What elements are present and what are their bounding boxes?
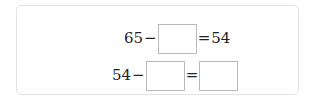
answer-box-1[interactable] (146, 61, 185, 91)
equals-sign: = (185, 60, 200, 91)
answer-box[interactable] (158, 24, 197, 54)
problem-card: 65 − = 54 54 − = (16, 5, 299, 95)
minuend: 54 (112, 60, 131, 91)
equation-row-1: 65 − = 54 (124, 23, 230, 54)
equation-row-2: 54 − = (112, 60, 238, 91)
result: 54 (211, 23, 230, 54)
answer-box-2[interactable] (199, 61, 238, 91)
minus-sign: − (131, 60, 146, 91)
minuend: 65 (124, 23, 143, 54)
minus-sign: − (143, 23, 158, 54)
equals-sign: = (197, 23, 212, 54)
